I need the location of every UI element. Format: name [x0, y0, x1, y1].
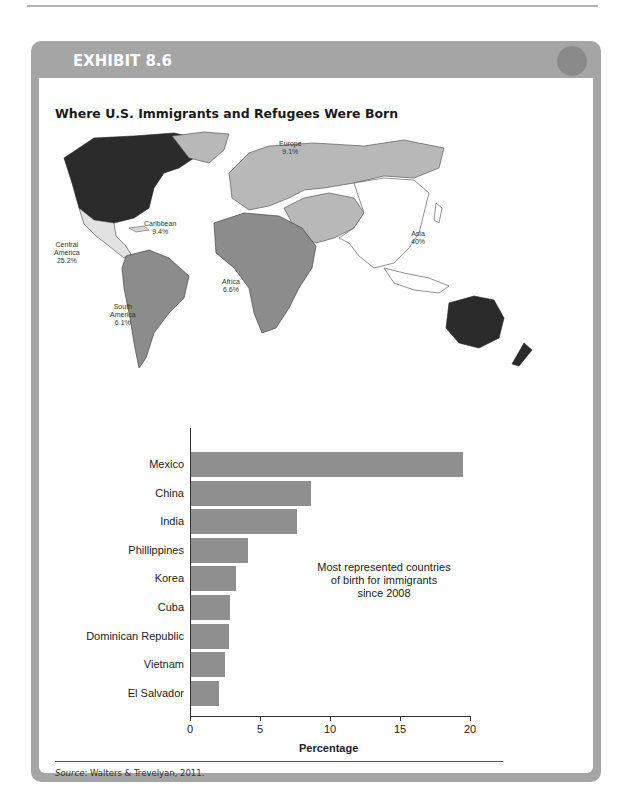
bar-row: Cuba: [39, 595, 539, 621]
africa-value: 6.6%: [222, 286, 240, 294]
exhibit-panel: Where U.S. Immigrants and Refugees Were …: [39, 78, 593, 773]
bar: [191, 509, 297, 534]
world-map: Europe 9.1% Caribbean 9.4% Central Ameri…: [54, 128, 574, 378]
map-australia: [446, 296, 504, 348]
annotation-line-2: of birth for immigrants: [309, 574, 459, 587]
bar: [191, 566, 236, 591]
map-label-europe: Europe 9.1%: [279, 140, 302, 156]
central-name-2: America: [54, 249, 80, 257]
map-label-caribbean: Caribbean 9.4%: [144, 220, 176, 236]
x-tick-label: 10: [315, 723, 345, 735]
bar-row: Vietnam: [39, 652, 539, 678]
top-rule: [27, 5, 598, 7]
bar-label: Mexico: [39, 458, 184, 470]
annotation-line-3: since 2008: [309, 587, 459, 600]
bar: [191, 652, 225, 677]
bar-label: Cuba: [39, 601, 184, 613]
x-tick-label: 15: [385, 723, 415, 735]
map-label-central-america: Central America 25.2%: [54, 241, 80, 265]
africa-name: Africa: [222, 278, 240, 286]
x-tick: [330, 716, 331, 721]
x-tick: [260, 716, 261, 721]
source-divider: [55, 761, 503, 762]
central-value: 25.2%: [54, 257, 80, 265]
bar: [191, 452, 463, 477]
europe-name: Europe: [279, 140, 302, 148]
south-name-1: South: [110, 303, 136, 311]
europe-value: 9.1%: [279, 148, 302, 156]
decorative-circle-icon: [557, 46, 587, 76]
bar-label: Korea: [39, 572, 184, 584]
x-axis-title: Percentage: [299, 742, 358, 754]
chart-annotation: Most represented countries of birth for …: [309, 561, 459, 600]
bar-row: China: [39, 481, 539, 507]
exhibit-box: EXHIBIT 8.6 Where U.S. Immigrants and Re…: [31, 41, 601, 782]
x-tick-label: 0: [175, 723, 205, 735]
bar-row: India: [39, 509, 539, 535]
bar-row: Korea: [39, 566, 539, 592]
map-label-asia: Asia 40%: [411, 230, 425, 246]
bar: [191, 595, 230, 620]
asia-value: 40%: [411, 238, 425, 246]
x-tick: [470, 716, 471, 721]
source-text: : Walters & Trevelyan, 2011.: [84, 768, 204, 778]
world-map-graphic: [54, 128, 574, 378]
south-value: 6.1%: [110, 319, 136, 327]
bar-label: Vietnam: [39, 658, 184, 670]
caribbean-name: Caribbean: [144, 220, 176, 228]
source-note: Source: Walters & Trevelyan, 2011.: [55, 768, 204, 778]
bar-label: India: [39, 515, 184, 527]
map-southeast-asia: [384, 268, 449, 293]
annotation-line-1: Most represented countries: [309, 561, 459, 574]
map-africa: [214, 213, 316, 333]
bar-label: Phillippines: [39, 544, 184, 556]
bar-label: Dominican Republic: [39, 630, 184, 642]
central-name-1: Central: [54, 241, 80, 249]
exhibit-label: EXHIBIT 8.6: [73, 52, 172, 70]
exhibit-header: EXHIBIT 8.6: [31, 41, 601, 77]
x-tick-label: 20: [455, 723, 485, 735]
x-tick: [400, 716, 401, 721]
map-new-zealand: [512, 343, 532, 366]
asia-name: Asia: [411, 230, 425, 238]
bar-row: Mexico: [39, 452, 539, 478]
south-name-2: America: [110, 311, 136, 319]
x-tick-label: 5: [245, 723, 275, 735]
bar-row: El Salvador: [39, 681, 539, 707]
bar-label: El Salvador: [39, 687, 184, 699]
bar: [191, 624, 229, 649]
caribbean-value: 9.4%: [144, 228, 176, 236]
source-prefix: Source: [55, 768, 84, 778]
exhibit-title: Where U.S. Immigrants and Refugees Were …: [55, 106, 398, 121]
x-tick: [190, 716, 191, 721]
bar: [191, 538, 248, 563]
map-japan: [434, 203, 442, 223]
bar: [191, 481, 311, 506]
bar-row: Dominican Republic: [39, 624, 539, 650]
bar: [191, 681, 219, 706]
bar-label: China: [39, 487, 184, 499]
map-label-africa: Africa 6.6%: [222, 278, 240, 294]
bar-row: Phillippines: [39, 538, 539, 564]
map-label-south-america: South America 6.1%: [110, 303, 136, 327]
